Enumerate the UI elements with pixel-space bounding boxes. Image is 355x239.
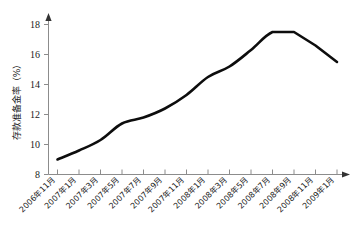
chart-container: 8 10 12 14 16 18 存款准备金率（%） 2006年11月: [0, 0, 355, 239]
data-series-line: [58, 32, 338, 160]
y-axis-title: 存款准备金率（%）: [11, 60, 22, 141]
x-axis-arrow-icon: [342, 171, 350, 177]
y-tick-label-3: 14: [30, 79, 40, 90]
y-axis-arrow-icon: [45, 13, 51, 21]
y-tick-label-2: 12: [30, 109, 40, 120]
y-axis: [45, 13, 51, 175]
y-tick-marks: [44, 25, 49, 175]
x-tick-labels: 2006年11月 2007年1月 2007年3月 2007年5月 2007年7月…: [17, 174, 336, 214]
y-tick-label-1: 10: [30, 139, 40, 150]
line-chart: 8 10 12 14 16 18 存款准备金率（%） 2006年11月: [0, 0, 355, 239]
x-tick-marks: [58, 170, 338, 175]
y-tick-label-4: 16: [30, 49, 40, 60]
y-tick-label-5: 18: [30, 19, 40, 30]
y-tick-label-0: 8: [35, 169, 40, 180]
